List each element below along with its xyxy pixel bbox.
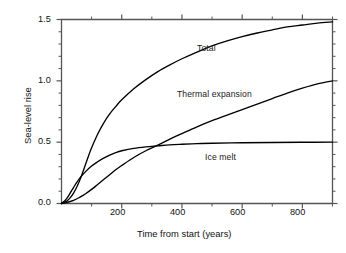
y-axis-title: Sea-level rise <box>22 87 33 144</box>
curve-label-thermal-expansion: Thermal expansion <box>177 89 252 99</box>
xtick-label-3: 800 <box>290 207 305 217</box>
ytick-label-1: 1.0 <box>38 75 51 85</box>
ytick-label-2: 0.5 <box>38 136 51 146</box>
sea-level-rise-chart: 1.5 1.0 0.5 0.0 200 400 600 800 Sea-leve… <box>0 0 346 253</box>
curve-label-ice-melt: Ice melt <box>205 152 236 162</box>
ytick-label-0: 1.5 <box>38 14 51 24</box>
xtick-label-0: 200 <box>110 207 125 217</box>
xtick-label-2: 600 <box>230 207 245 217</box>
xtick-label-1: 400 <box>170 207 185 217</box>
curve-ice-melt <box>62 142 333 203</box>
curve-label-total: Total <box>197 43 216 53</box>
x-axis-title: Time from start (years) <box>137 228 231 239</box>
ytick-label-3: 0.0 <box>38 197 51 207</box>
